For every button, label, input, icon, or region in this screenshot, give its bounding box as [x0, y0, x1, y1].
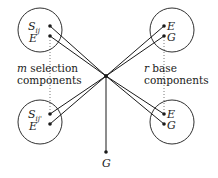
node-label-bottom: E	[28, 32, 37, 45]
component-circle	[18, 8, 62, 52]
svg-text:r base: r base	[144, 62, 177, 74]
component-bottom-left: Sij' E	[18, 100, 62, 144]
hub-node	[104, 74, 108, 78]
base-caption: r base components	[144, 62, 209, 86]
node-dot	[162, 34, 166, 38]
node-label-bottom: G	[167, 119, 176, 132]
selection-caption: m selection components	[17, 62, 82, 86]
node-dot	[48, 34, 52, 38]
root-node-dot	[104, 150, 108, 154]
component-top-right: E G	[150, 8, 194, 52]
component-bottom-right: E G	[150, 100, 194, 144]
node-dot	[48, 112, 52, 116]
svg-text:components: components	[144, 74, 209, 86]
node-dot	[162, 122, 166, 126]
node-dot	[162, 24, 166, 28]
edges	[50, 26, 164, 152]
node-dot	[162, 112, 166, 116]
node-label-bottom: E	[28, 120, 37, 133]
node-dot	[48, 122, 52, 126]
component-top-left: Sij E	[18, 8, 62, 52]
component-diagram: Sij E Sij' E E G E G G m selection compo…	[0, 0, 218, 178]
node-dot	[48, 24, 52, 28]
svg-text:m selection: m selection	[17, 62, 78, 74]
node-label-bottom: G	[167, 31, 176, 44]
svg-text:components: components	[17, 74, 82, 86]
root-node-label: G	[102, 157, 111, 170]
